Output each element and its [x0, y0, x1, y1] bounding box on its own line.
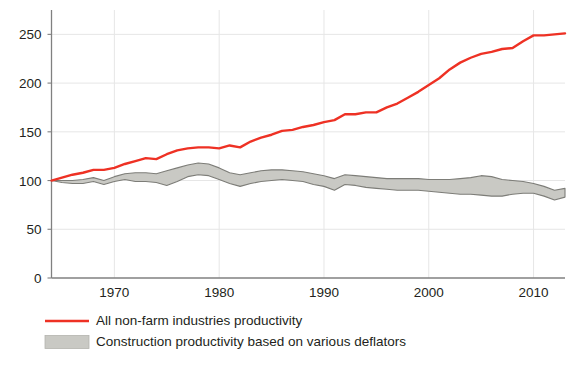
legend-item-label: All non-farm industries productivity — [96, 313, 303, 328]
legend-item-label: Construction productivity based on vario… — [96, 334, 406, 349]
x-axis-tick-label: 1980 — [204, 285, 234, 300]
chart-container: 050100150200250 19701980199020002010 All… — [0, 0, 588, 366]
legend-marker-swatch — [45, 336, 89, 349]
y-axis-tick-label: 100 — [19, 174, 42, 189]
x-axis-tick-label: 1970 — [99, 285, 129, 300]
productivity-line-chart: 050100150200250 19701980199020002010 All… — [0, 0, 588, 366]
y-axis-tick-label: 50 — [26, 222, 41, 237]
x-axis-tick-label: 2000 — [414, 285, 444, 300]
y-axis-tick-label: 250 — [19, 27, 42, 42]
y-axis-tick-label: 0 — [34, 271, 42, 286]
y-axis-tick-label: 150 — [19, 125, 42, 140]
x-axis-tick-label: 2010 — [519, 285, 549, 300]
x-axis-tick-label: 1990 — [309, 285, 339, 300]
y-axis-tick-label: 200 — [19, 76, 42, 91]
